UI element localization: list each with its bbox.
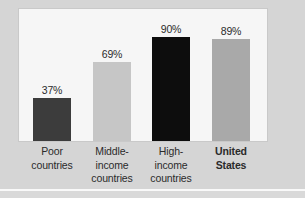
category-label-line: income (140, 159, 202, 173)
category-label-line: countries (21, 159, 83, 173)
bar-rect-1[interactable] (33, 98, 71, 141)
category-label-line: States (200, 159, 262, 173)
bar-value-label-1: 37% (22, 84, 82, 96)
bars-layer: 37% 69% 90% 89% (18, 8, 268, 142)
category-label-line: income (81, 159, 143, 173)
bar-rect-4[interactable] (212, 39, 250, 141)
bar-value-label-2: 69% (82, 48, 142, 60)
category-label-united-states: United States (200, 145, 262, 172)
bar-rect-2[interactable] (93, 62, 131, 141)
bottom-strip (0, 191, 305, 198)
bar-rect-3[interactable] (152, 37, 190, 141)
category-label-line: Poor (21, 145, 83, 159)
category-label-line: Middle- (81, 145, 143, 159)
bar-value-label-3: 90% (141, 23, 201, 35)
category-labels-row: Poor countries Middle- income countries … (18, 145, 268, 191)
category-label-line: countries (140, 172, 202, 186)
category-label-middle-income-countries: Middle- income countries (81, 145, 143, 186)
category-label-line: countries (81, 172, 143, 186)
category-label-high-income-countries: High- income countries (140, 145, 202, 186)
category-label-poor-countries: Poor countries (21, 145, 83, 172)
category-label-line: United (200, 145, 262, 159)
bar-chart-figure: 37% 69% 90% 89% Poor countries Middle- i… (0, 0, 305, 198)
bar-value-label-4: 89% (201, 25, 261, 37)
category-label-line: High- (140, 145, 202, 159)
